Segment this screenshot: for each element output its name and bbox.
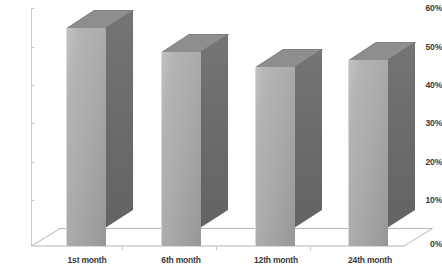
x-axis-tick-mark-3 bbox=[310, 247, 311, 250]
y-axis-tick-label-60: 60% bbox=[408, 4, 442, 13]
x-axis-tick-mark-1 bbox=[122, 247, 123, 250]
x-axis-label-1st-month: 1st month bbox=[47, 255, 127, 265]
y-axis-tick-mark-10 bbox=[31, 200, 34, 201]
bar-24th-month bbox=[348, 42, 387, 246]
bar-chart: 60% 50% 40% 30% 20% 10% 0% bbox=[0, 0, 442, 273]
bar-12th-month bbox=[255, 49, 294, 246]
bar-side-face bbox=[387, 42, 415, 228]
bar-side-face bbox=[200, 34, 228, 228]
bar-side-face bbox=[294, 49, 322, 228]
y-axis-tick-mark-30 bbox=[31, 123, 34, 124]
bar-6th-month bbox=[161, 34, 200, 246]
y-axis-line bbox=[31, 8, 32, 246]
y-axis-tick-mark-20 bbox=[31, 162, 34, 163]
x-axis-tick-mark-2 bbox=[216, 247, 217, 250]
bar-front-face bbox=[66, 28, 106, 246]
y-axis-tick-mark-60 bbox=[31, 8, 34, 9]
bar-front-face bbox=[255, 67, 295, 246]
bar-1st-month bbox=[66, 10, 105, 246]
x-axis-label-24th-month: 24th month bbox=[328, 255, 412, 265]
bar-front-face bbox=[348, 60, 388, 246]
bar-side-face bbox=[105, 10, 133, 228]
x-axis-label-6th-month: 6th month bbox=[141, 255, 221, 265]
y-axis-tick-mark-40 bbox=[31, 85, 34, 86]
bar-front-face bbox=[161, 52, 201, 246]
y-axis-tick-mark-50 bbox=[31, 47, 34, 48]
x-axis-label-12th-month: 12th month bbox=[234, 255, 318, 265]
